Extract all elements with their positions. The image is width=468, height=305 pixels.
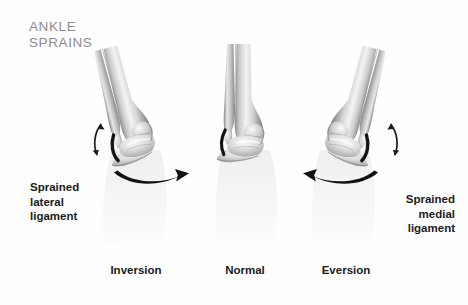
motion-arrowhead-inversion — [175, 169, 189, 182]
tilt-arrowhead-down-inversion — [93, 150, 99, 155]
ghost-foot-silhouette-normal — [216, 150, 277, 250]
ankle-bones-eversion — [321, 42, 396, 168]
panel-label-eversion: Eversion — [301, 264, 391, 276]
panel-normal — [216, 44, 277, 250]
anatomy-artwork — [0, 0, 468, 305]
tilt-arrowhead-down-eversion — [393, 150, 399, 155]
ankle-bones-normal — [217, 44, 265, 162]
panel-eversion — [303, 42, 399, 250]
panel-inversion — [84, 42, 189, 250]
ankle-sprains-illustration: ANKLE SPRAINS — [0, 0, 468, 305]
annotation-sprained-lateral-ligament: Sprained lateral ligament — [30, 180, 79, 224]
panel-label-inversion: Inversion — [91, 264, 181, 276]
panel-label-normal: Normal — [200, 264, 290, 276]
annotation-sprained-medial-ligament: Sprained medial ligament — [406, 192, 455, 236]
